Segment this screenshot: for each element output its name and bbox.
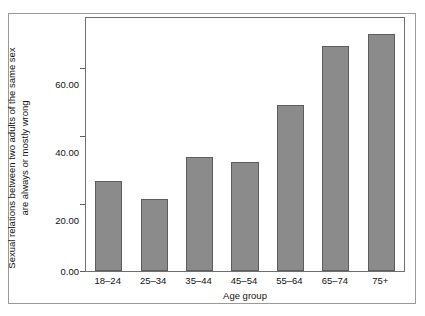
y-axis-title-wrapper: Sexual relations between two adults of t…: [0, 0, 36, 316]
bar-45-54: [231, 162, 258, 271]
y-axis-tick-labels: 60.00 40.00 20.00 0.00: [36, 17, 79, 272]
bars-layer: [86, 18, 404, 271]
bar-25-34: [141, 199, 168, 271]
x-tick-label-7: 75+: [358, 275, 403, 287]
bar-65-74: [322, 46, 349, 271]
x-tick-label-5: 55–64: [267, 275, 312, 287]
plot-area: [85, 17, 405, 272]
bar-55-64: [277, 105, 304, 271]
y-tick-label-20: 20.00: [55, 216, 79, 226]
y-axis-title: Sexual relations between two adults of t…: [6, 18, 31, 298]
x-tick-label-1: 18–24: [85, 275, 130, 287]
x-tick-label-3: 35–44: [176, 275, 221, 287]
bar-75+: [368, 34, 395, 271]
figure-canvas: Sexual relations between two adults of t…: [0, 0, 425, 316]
y-tick-label-40: 40.00: [55, 148, 79, 158]
y-tick-label-0: 0.00: [61, 267, 80, 277]
x-tick-label-6: 65–74: [312, 275, 357, 287]
bar-35-44: [186, 157, 213, 271]
x-tick-label-2: 25–34: [130, 275, 175, 287]
y-tick-label-60: 60.00: [55, 80, 79, 90]
x-axis-tick-labels: 18–2425–3435–4445–5455–6465–7475+: [85, 275, 405, 289]
bar-18-24: [95, 181, 122, 271]
x-tick-label-4: 45–54: [221, 275, 266, 287]
x-axis-title: Age group: [85, 290, 405, 302]
